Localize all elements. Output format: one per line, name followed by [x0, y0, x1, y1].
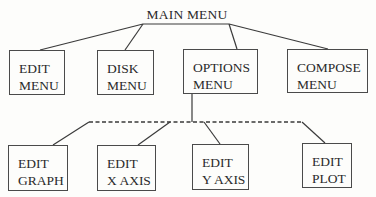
edit-menu-box: EDIT MENU	[9, 50, 65, 95]
edit-graph-line2: GRAPH	[18, 172, 67, 189]
edit-graph-box: EDIT GRAPH	[8, 145, 68, 191]
options-menu-line1: OPTIONS	[193, 59, 257, 76]
edit-y-axis-line1: EDIT	[202, 154, 248, 171]
disk-menu-box: DISK MENU	[97, 50, 154, 95]
options-menu-box: OPTIONS MENU	[183, 49, 258, 94]
edit-menu-line2: MENU	[19, 77, 64, 94]
edit-graph-line1: EDIT	[18, 155, 67, 172]
edit-y-axis-box: EDIT Y AXIS	[192, 144, 249, 190]
edit-plot-line1: EDIT	[312, 153, 351, 170]
disk-menu-line2: MENU	[107, 77, 153, 94]
compose-menu-line2: MENU	[297, 76, 367, 93]
edit-y-axis-line2: Y AXIS	[202, 171, 248, 188]
compose-menu-box: COMPOSE MENU	[287, 49, 368, 93]
edit-x-axis-box: EDIT X AXIS	[97, 145, 156, 191]
edit-x-axis-line2: X AXIS	[107, 172, 155, 189]
edit-x-axis-line1: EDIT	[107, 155, 155, 172]
options-menu-line2: MENU	[193, 76, 257, 93]
compose-menu-line1: COMPOSE	[297, 59, 367, 76]
edit-plot-line2: PLOT	[312, 170, 351, 187]
disk-menu-line1: DISK	[107, 60, 153, 77]
main-menu-label: MAIN MENU	[140, 7, 234, 23]
edit-plot-box: EDIT PLOT	[302, 143, 352, 188]
edit-menu-line1: EDIT	[19, 60, 64, 77]
